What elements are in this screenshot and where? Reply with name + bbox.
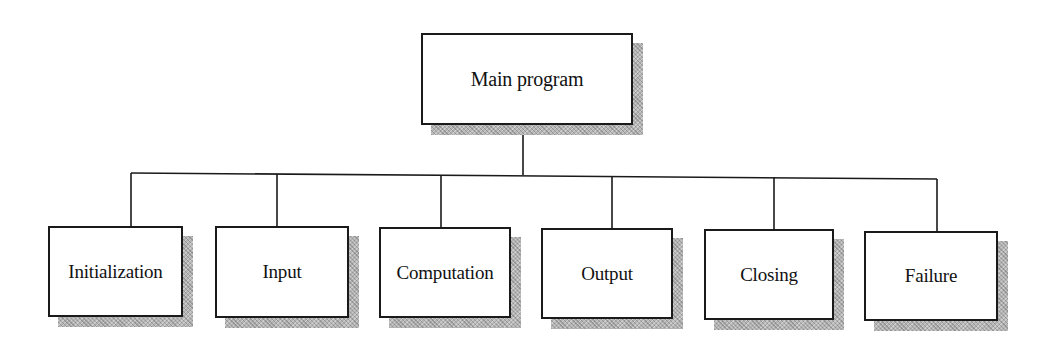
box: Input xyxy=(215,226,349,318)
node-label: Computation xyxy=(396,262,493,284)
node-closing: Closing xyxy=(704,229,834,320)
box: Initialization xyxy=(48,226,183,317)
node-initialization: Initialization xyxy=(48,226,183,317)
box: Output xyxy=(541,228,673,319)
node-label: Failure xyxy=(905,265,957,287)
node-computation: Computation xyxy=(379,227,511,318)
node-main-program: Main program xyxy=(421,33,633,125)
node-label: Output xyxy=(581,263,633,285)
node-label: Main program xyxy=(471,68,584,91)
node-label: Initialization xyxy=(68,261,162,283)
box: Main program xyxy=(421,33,633,125)
node-label: Input xyxy=(262,261,301,283)
horizontal-bus-line xyxy=(131,173,937,179)
box: Computation xyxy=(379,227,511,318)
node-output: Output xyxy=(541,228,673,319)
node-failure: Failure xyxy=(864,231,998,321)
box: Closing xyxy=(704,229,834,320)
box: Failure xyxy=(864,231,998,321)
node-input: Input xyxy=(215,226,349,318)
node-label: Closing xyxy=(740,264,798,286)
